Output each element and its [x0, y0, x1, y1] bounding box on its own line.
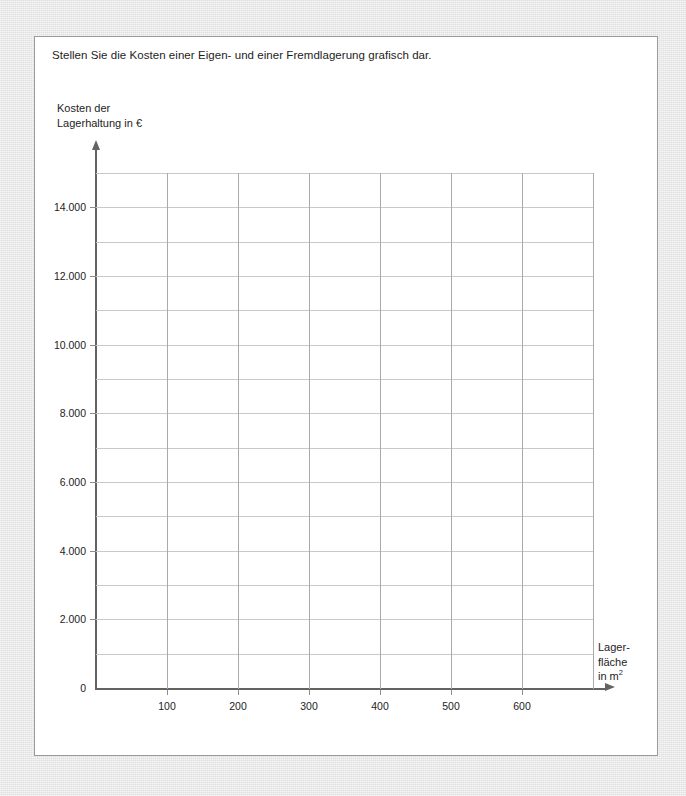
x-axis-tick	[238, 690, 239, 695]
vertical-gridline	[593, 173, 594, 689]
worksheet-card: Stellen Sie die Kosten einer Eigen- und …	[34, 36, 658, 756]
y-axis-tick-label-text: 8.000	[60, 407, 86, 419]
y-axis-tick-label-text: 12.000	[54, 270, 86, 282]
x-axis-line	[95, 688, 607, 690]
horizontal-gridline	[96, 173, 594, 174]
y-axis-tick-label: 10.000	[40, 339, 86, 351]
x-axis-tick	[309, 690, 310, 695]
x-axis-arrow-icon	[605, 683, 615, 691]
horizontal-gridline	[96, 585, 594, 586]
y-axis-tick-label: 0	[40, 682, 86, 694]
x-axis-tick	[522, 690, 523, 695]
x-axis-tick-label: 500	[431, 700, 471, 712]
y-axis-tick-label-text: 2.000	[60, 613, 86, 625]
horizontal-gridline	[96, 207, 594, 208]
x-axis-tick-label: 400	[360, 700, 400, 712]
y-axis-tick-label: 14.000	[40, 201, 86, 213]
y-axis-title-line1: Kosten der	[57, 101, 142, 116]
vertical-gridline	[167, 173, 168, 689]
y-axis-tick-label: 8.000	[40, 407, 86, 419]
horizontal-gridline	[96, 516, 594, 517]
x-axis-tick-label: 200	[218, 700, 258, 712]
horizontal-gridline	[96, 482, 594, 483]
coordinate-grid-chart: Kosten der Lagerhaltung in € Lager- fläc…	[35, 37, 659, 757]
y-axis-tick-label: 6.000	[40, 476, 86, 488]
y-axis-title: Kosten der Lagerhaltung in €	[57, 101, 142, 131]
y-axis-title-line2: Lagerhaltung in €	[57, 116, 142, 131]
horizontal-gridline	[96, 654, 594, 655]
y-axis-tick	[90, 551, 96, 552]
y-axis-tick-label-text: 14.000	[54, 201, 86, 213]
y-axis-tick-label-text: 10.000	[54, 339, 86, 351]
y-axis-tick-label: 12.000	[40, 270, 86, 282]
y-axis-tick	[90, 207, 96, 208]
x-axis-tick-label: 100	[147, 700, 187, 712]
vertical-gridline	[238, 173, 239, 689]
x-axis-tick-label: 300	[289, 700, 329, 712]
vertical-gridline	[309, 173, 310, 689]
y-axis-line	[95, 148, 97, 689]
y-axis-tick	[90, 482, 96, 483]
y-axis-tick	[90, 413, 96, 414]
horizontal-gridline	[96, 276, 594, 277]
horizontal-gridline	[96, 345, 594, 346]
horizontal-gridline	[96, 448, 594, 449]
horizontal-gridline	[96, 379, 594, 380]
y-axis-tick	[90, 276, 96, 277]
y-axis-tick	[90, 619, 96, 620]
plot-area[interactable]: 02.0004.0006.0008.00010.00012.00014.0001…	[96, 148, 654, 690]
y-axis-tick-label-text: 0	[80, 682, 86, 694]
y-axis-tick-label-text: 6.000	[60, 476, 86, 488]
horizontal-gridline	[96, 242, 594, 243]
x-axis-tick	[167, 690, 168, 695]
y-axis-tick-label: 4.000	[40, 545, 86, 557]
vertical-gridline	[451, 173, 452, 689]
x-axis-tick-label: 600	[502, 700, 542, 712]
x-axis-tick	[451, 690, 452, 695]
vertical-gridline	[380, 173, 381, 689]
y-axis-tick	[90, 345, 96, 346]
x-axis-tick	[380, 690, 381, 695]
vertical-gridline	[522, 173, 523, 689]
horizontal-gridline	[96, 310, 594, 311]
horizontal-gridline	[96, 551, 594, 552]
y-axis-tick-label-text: 4.000	[60, 545, 86, 557]
horizontal-gridline	[96, 619, 594, 620]
y-axis-tick-label: 2.000	[40, 613, 86, 625]
horizontal-gridline	[96, 413, 594, 414]
y-axis-arrow-icon	[92, 140, 100, 150]
